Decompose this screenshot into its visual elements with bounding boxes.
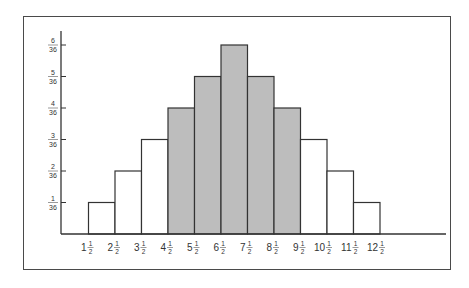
x-tick-label-whole: 8 <box>266 242 272 253</box>
histogram-bar <box>248 77 275 235</box>
x-tick-label-denominator: 2 <box>115 248 119 255</box>
x-tick-label-numerator: 1 <box>168 240 172 247</box>
x-tick-label-whole: 2 <box>107 242 113 253</box>
y-tick-label-denominator: 36 <box>49 172 57 179</box>
x-tick-label-whole: 6 <box>213 242 219 253</box>
x-tick-label-numerator: 1 <box>115 240 119 247</box>
x-tick-label-denominator: 2 <box>354 248 358 255</box>
histogram-bar <box>221 45 248 234</box>
y-tick-label-denominator: 36 <box>49 141 57 148</box>
y-tick-label-denominator: 36 <box>49 78 57 85</box>
x-tick-label-denominator: 2 <box>168 248 172 255</box>
histogram-bar <box>195 77 222 235</box>
x-tick-label-denominator: 2 <box>380 248 384 255</box>
histogram-bar <box>115 171 142 234</box>
x-tick-label-numerator: 1 <box>221 240 225 247</box>
histogram-bar <box>89 203 116 235</box>
y-tick-label-numerator: 4 <box>51 100 55 107</box>
y-tick-label-numerator: 5 <box>51 69 55 76</box>
histogram-chart: 136236336436536636 112212312412512612712… <box>0 0 469 288</box>
y-tick-label-numerator: 6 <box>51 37 55 44</box>
x-tick-label-whole: 1 <box>81 242 87 253</box>
x-tick-label-denominator: 2 <box>274 248 278 255</box>
y-ticks-group: 136236336436536636 <box>48 37 66 211</box>
x-tick-label-whole: 11 <box>341 242 352 253</box>
x-tick-label-denominator: 2 <box>142 248 146 255</box>
y-tick-label-denominator: 36 <box>49 204 57 211</box>
x-tick-label-denominator: 2 <box>89 248 93 255</box>
histogram-bar <box>142 140 169 235</box>
x-tick-label-numerator: 1 <box>248 240 252 247</box>
x-tick-label-numerator: 1 <box>195 240 199 247</box>
x-tick-label-whole: 10 <box>314 242 326 253</box>
y-tick-label-numerator: 2 <box>51 163 55 170</box>
x-tick-label-whole: 12 <box>367 242 379 253</box>
x-tick-label-whole: 3 <box>134 242 140 253</box>
y-tick-label-denominator: 36 <box>49 109 57 116</box>
histogram-bar <box>274 108 301 234</box>
x-tick-label-denominator: 2 <box>248 248 252 255</box>
y-tick-label-numerator: 3 <box>51 132 55 139</box>
x-tick-label-numerator: 1 <box>142 240 146 247</box>
y-tick-label-numerator: 1 <box>51 195 55 202</box>
x-tick-label-numerator: 1 <box>274 240 278 247</box>
x-tick-label-whole: 4 <box>160 242 166 253</box>
x-tick-label-whole: 5 <box>187 242 193 253</box>
histogram-bar <box>327 171 354 234</box>
x-tick-label-numerator: 1 <box>354 240 358 247</box>
x-tick-label-denominator: 2 <box>327 248 331 255</box>
bars-group <box>89 45 381 234</box>
y-tick-label-denominator: 36 <box>49 46 57 53</box>
x-tick-label-denominator: 2 <box>195 248 199 255</box>
x-tick-label-denominator: 2 <box>301 248 305 255</box>
histogram-bar <box>168 108 195 234</box>
x-tick-label-numerator: 1 <box>89 240 93 247</box>
x-tick-label-numerator: 1 <box>327 240 331 247</box>
x-ticks-group: 112212312412512612712812912101211121212 <box>81 240 385 255</box>
histogram-bar <box>354 203 381 235</box>
x-tick-label-numerator: 1 <box>301 240 305 247</box>
histogram-bar <box>301 140 328 235</box>
x-tick-label-denominator: 2 <box>221 248 225 255</box>
x-tick-label-numerator: 1 <box>380 240 384 247</box>
x-tick-label-whole: 7 <box>240 242 246 253</box>
x-tick-label-whole: 9 <box>293 242 299 253</box>
